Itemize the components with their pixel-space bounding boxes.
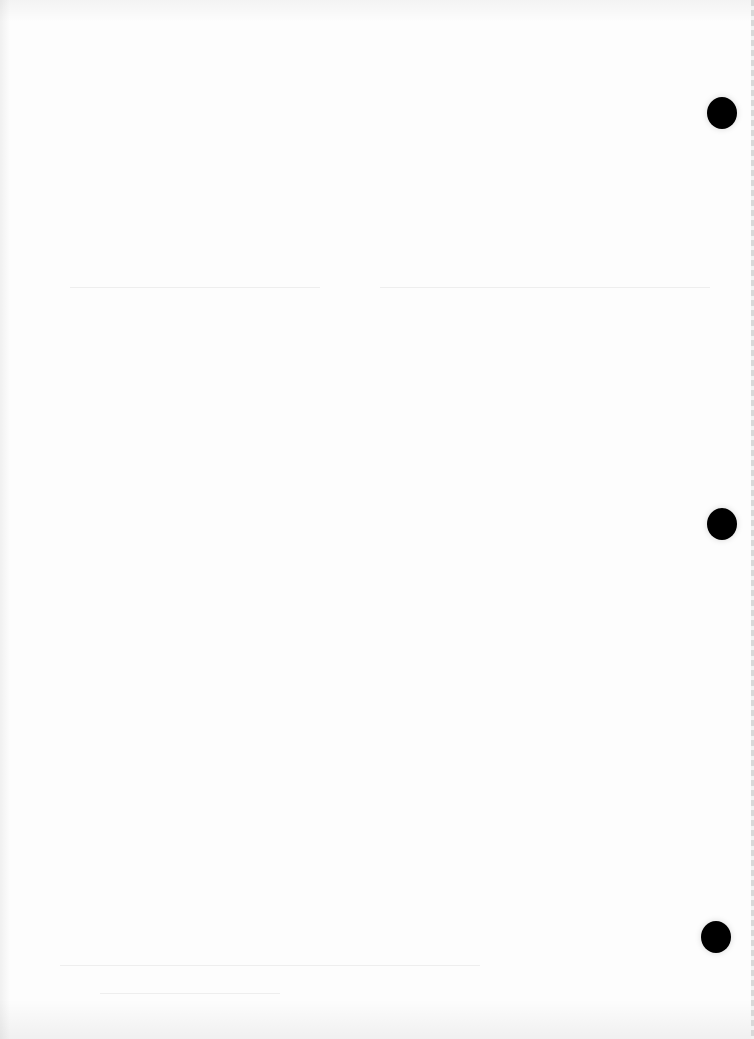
bleed-through-line	[380, 287, 710, 288]
bleed-through-line	[60, 965, 480, 966]
punch-hole-middle	[707, 508, 737, 540]
punch-hole-bottom	[701, 921, 731, 953]
punch-hole-top	[707, 97, 737, 129]
bleed-through-line	[70, 287, 320, 288]
bleed-through-line	[100, 993, 280, 994]
scanned-page	[0, 0, 754, 1039]
